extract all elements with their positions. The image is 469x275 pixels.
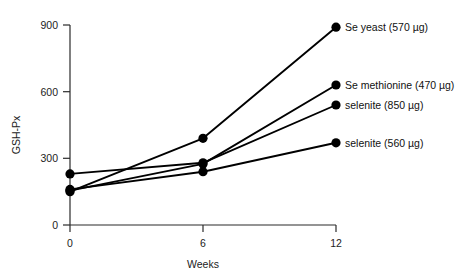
series-label-selenite-560: selenite (560 µg) (345, 137, 423, 149)
data-point (65, 185, 74, 194)
x-tick-label-0: 0 (67, 237, 73, 249)
data-point (331, 23, 340, 32)
data-point (65, 169, 74, 178)
series-label-selenite-850: selenite (850 µg) (345, 99, 423, 111)
data-point (331, 138, 340, 147)
chart-figure: 900 600 300 0 0 6 12 Weeks GSH-Px (0, 0, 469, 275)
data-point (331, 100, 340, 109)
y-tick-label-900: 900 (40, 19, 58, 31)
x-tick-label-12: 12 (330, 237, 342, 249)
y-tick-label-300: 300 (40, 152, 58, 164)
x-axis (70, 225, 336, 232)
y-tick-label-600: 600 (40, 86, 58, 98)
x-tick-label-6: 6 (200, 237, 206, 249)
gsh-px-line-chart: 900 600 300 0 0 6 12 Weeks GSH-Px (0, 0, 469, 275)
y-axis-title: GSH-Px (10, 115, 22, 154)
data-point (198, 158, 207, 167)
data-point (331, 80, 340, 89)
y-tick-label-0: 0 (52, 219, 58, 231)
x-axis-title: Weeks (187, 258, 219, 270)
data-point (198, 134, 207, 143)
series-label-se-yeast: Se yeast (570 µg) (345, 21, 428, 33)
data-point (198, 167, 207, 176)
series-label-se-methionine: Se methionine (470 µg) (345, 79, 454, 91)
